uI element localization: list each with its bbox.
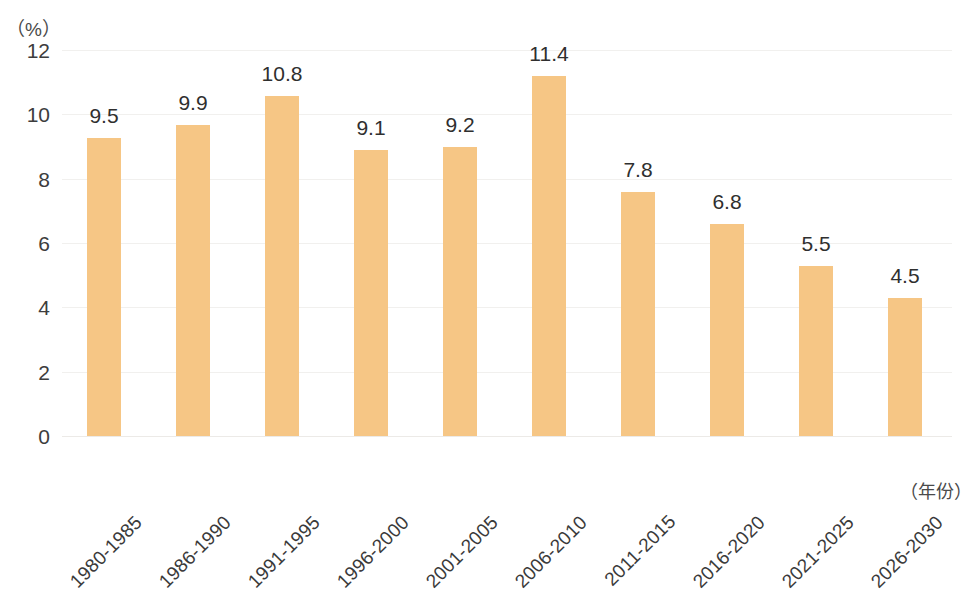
y-axis-tick-label: 2 [6,361,50,382]
x-tick-slot: 2021-2025 [774,436,858,535]
bar-slot: 11.4 [507,50,591,436]
x-tick-slot: 2016-2020 [685,436,769,535]
bar-value-label: 11.4 [507,43,591,64]
bar[interactable] [799,266,833,436]
bar-slot: 7.8 [596,50,680,436]
bar-value-label: 10.8 [240,63,324,84]
x-tick-slot: 2006-2010 [507,436,591,535]
bar-value-label: 4.5 [863,265,947,286]
bar-value-label: 9.1 [329,117,413,138]
x-axis-tick-label: 1996-2000 [333,512,414,593]
x-axis-tick-label: 1991-1995 [244,512,325,593]
x-axis-tick-label: 1986-1990 [155,512,236,593]
y-axis-unit-caption: （%） [6,14,61,41]
bar[interactable] [354,150,388,436]
x-axis-tick-label: 2001-2005 [422,512,503,593]
y-axis-tick-labels: 024681012 [0,50,50,436]
plot-area: 9.59.910.89.19.211.47.86.85.54.5 [62,50,952,436]
bar-slot: 6.8 [685,50,769,436]
bar-value-label: 9.5 [62,105,146,126]
bar-slot: 9.5 [62,50,146,436]
bar-slot: 10.8 [240,50,324,436]
bar-slot: 4.5 [863,50,947,436]
x-axis-tick-label: 1980-1985 [66,512,147,593]
bar-slot: 5.5 [774,50,858,436]
y-axis-tick-label: 0 [6,426,50,447]
bar-slot: 9.9 [151,50,235,436]
x-axis-tick-label: 2016-2020 [689,512,770,593]
y-axis-tick-label: 8 [6,168,50,189]
x-tick-slot: 1986-1990 [151,436,235,535]
bar[interactable] [87,138,121,437]
bar-slot: 9.2 [418,50,502,436]
y-axis-tick-label: 10 [6,104,50,125]
bar-value-label: 6.8 [685,191,769,212]
y-axis-tick-label: 6 [6,233,50,254]
bar[interactable] [443,147,477,436]
x-axis-tick-label: 2021-2025 [778,512,859,593]
x-tick-slot: 2011-2015 [596,436,680,535]
x-axis-tick-label: 2026-2030 [867,512,948,593]
bar-value-label: 7.8 [596,159,680,180]
x-tick-slot: 1980-1985 [62,436,146,535]
x-tick-slot: 2026-2030 [863,436,947,535]
x-tick-slot: 1996-2000 [329,436,413,535]
x-tick-slot: 2001-2005 [418,436,502,535]
bar[interactable] [710,224,744,436]
bar[interactable] [621,192,655,436]
bar[interactable] [888,298,922,436]
y-axis-tick-label: 12 [6,40,50,61]
x-axis-tick-labels: 1980-19851986-19901991-19951996-20002001… [62,436,952,535]
bar-value-label: 9.2 [418,114,502,135]
x-axis-tick-label: 2006-2010 [511,512,592,593]
bar-value-label: 9.9 [151,92,235,113]
bar-value-label: 5.5 [774,233,858,254]
bar-slot: 9.1 [329,50,413,436]
bar[interactable] [176,125,210,436]
x-axis-tick-label: 2011-2015 [600,511,680,591]
bar[interactable] [265,96,299,436]
bar[interactable] [532,76,566,436]
x-tick-slot: 1991-1995 [240,436,324,535]
y-axis-tick-label: 4 [6,297,50,318]
